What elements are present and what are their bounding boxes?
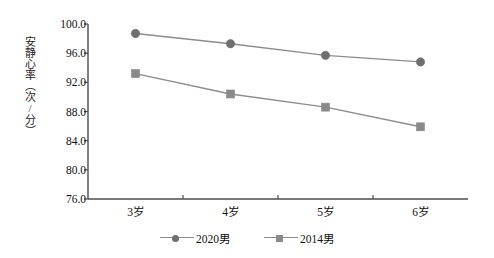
y-axis-title: 安静心率（次/分）: [14, 36, 36, 136]
legend-label: 2020男: [196, 230, 230, 246]
data-point-square-marker: [322, 103, 330, 111]
data-point-circle-marker: [131, 29, 139, 37]
y-tick-label: 76.0: [38, 193, 86, 205]
series-line-2020男: [136, 33, 421, 61]
data-point-square-marker: [132, 70, 140, 78]
circle-marker-icon: [172, 235, 179, 242]
series-line-2014男: [136, 74, 421, 127]
y-tick-label: 88.0: [38, 106, 86, 118]
y-tick-label: 92.0: [38, 76, 86, 88]
chart-legend: 2020男2014男: [0, 230, 494, 246]
data-point-square-marker: [227, 90, 235, 98]
data-point-square-marker: [417, 123, 425, 131]
x-tick-label: 5岁: [317, 203, 334, 219]
resting-heart-rate-line-chart: 安静心率（次/分） 76.080.084.088.092.096.0100.0 …: [0, 0, 494, 258]
y-tick-label: 100.0: [38, 18, 86, 30]
x-tick-label: 6岁: [412, 203, 429, 219]
legend-item-2014男[interactable]: 2014男: [264, 230, 334, 246]
data-point-circle-marker: [321, 51, 329, 59]
y-tick-label: 84.0: [38, 135, 86, 147]
data-point-circle-marker: [416, 58, 424, 66]
legend-label: 2014男: [300, 230, 334, 246]
y-tick-label: 96.0: [38, 47, 86, 59]
x-tick-label: 4岁: [222, 203, 239, 219]
legend-item-2020男[interactable]: 2020男: [160, 230, 230, 246]
circle-marker-icon: [160, 232, 194, 244]
square-marker-icon: [276, 235, 283, 242]
x-tick-label: 3岁: [127, 203, 144, 219]
data-point-circle-marker: [226, 39, 234, 47]
square-marker-icon: [264, 232, 298, 244]
y-axis-tick-labels: 76.080.084.088.092.096.0100.0: [38, 0, 86, 258]
y-tick-label: 80.0: [38, 164, 86, 176]
